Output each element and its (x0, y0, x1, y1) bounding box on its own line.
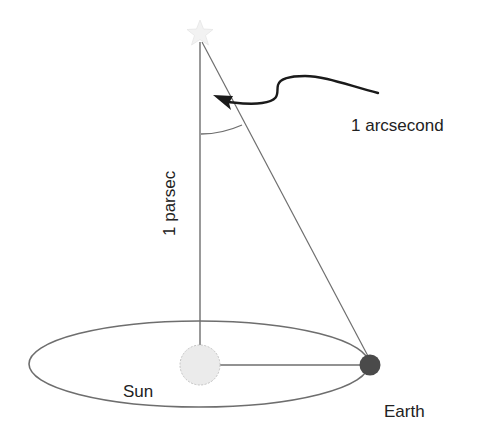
earth-label: Earth (384, 402, 425, 421)
arcsecond-label: 1 arcsecond (351, 116, 444, 135)
star-icon (187, 20, 213, 45)
star-earth-line (202, 42, 369, 358)
parsec-label: 1 parsec (160, 170, 179, 236)
parallax-diagram: 1 arcsecond 1 parsec Sun Earth (0, 0, 481, 440)
sun-icon (180, 345, 220, 385)
angle-arc (201, 125, 242, 134)
sun-label: Sun (123, 382, 153, 401)
earth-icon (360, 355, 381, 376)
arcsecond-pointer-line (228, 76, 378, 104)
